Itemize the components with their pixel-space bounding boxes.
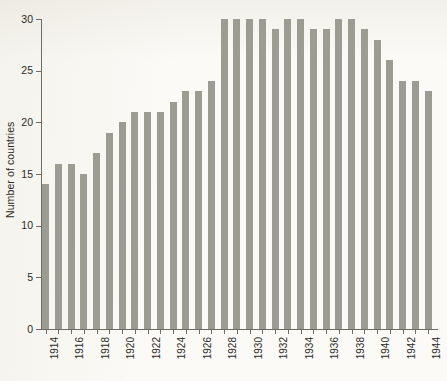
x-axis-tick-1942 <box>403 330 404 334</box>
x-axis-tick-label-1928: 1928 <box>228 337 238 359</box>
x-axis-tick-1937 <box>339 330 340 334</box>
x-axis-tick-label-1940: 1940 <box>381 337 391 359</box>
x-axis-tick-label-1920: 1920 <box>126 337 136 359</box>
bar <box>297 19 304 329</box>
bar <box>412 81 419 329</box>
x-axis-tick-1927 <box>211 330 212 334</box>
x-axis-tick-1934 <box>301 330 302 334</box>
y-axis-tick-label-25: 25 <box>0 65 33 76</box>
bar <box>399 81 406 329</box>
y-axis-tick <box>36 277 41 278</box>
y-axis-tick <box>36 71 41 72</box>
x-axis-tick-label-1938: 1938 <box>356 337 366 359</box>
x-axis-tick-1933 <box>288 330 289 334</box>
bar <box>425 91 432 329</box>
x-axis-tick-label-1942: 1942 <box>407 337 417 359</box>
y-axis-tick <box>36 226 41 227</box>
x-axis-tick-1939 <box>364 330 365 334</box>
x-axis-tick-label-1944: 1944 <box>432 337 442 359</box>
y-axis-tick <box>36 174 41 175</box>
x-axis-tick-1924 <box>173 330 174 334</box>
bar <box>119 122 126 329</box>
x-axis-tick-1916 <box>71 330 72 334</box>
bar <box>208 81 215 329</box>
bar <box>55 164 62 329</box>
bar <box>80 174 87 329</box>
bar <box>93 153 100 329</box>
x-axis-tick-label-1936: 1936 <box>330 337 340 359</box>
y-axis-tick-label-10: 10 <box>0 220 33 231</box>
bar <box>374 40 381 329</box>
x-axis-tick-label-1922: 1922 <box>152 337 162 359</box>
bar <box>361 29 368 329</box>
x-axis-tick-1935 <box>313 330 314 334</box>
y-axis-tick-label-15: 15 <box>0 169 33 180</box>
x-axis-tick-1943 <box>415 330 416 334</box>
x-axis-tick-label-1916: 1916 <box>75 337 85 359</box>
bar <box>310 29 317 329</box>
bar <box>170 102 177 329</box>
x-axis-tick-label-1924: 1924 <box>177 337 187 359</box>
x-axis-tick-1930 <box>250 330 251 334</box>
x-axis-tick-1914 <box>46 330 47 334</box>
bar <box>68 164 75 329</box>
page-background: Number of countries 051015202530 1914191… <box>0 0 447 381</box>
y-axis-tick <box>36 329 41 330</box>
y-axis-tick-label-30: 30 <box>0 14 33 25</box>
x-axis-tick-1922 <box>148 330 149 334</box>
bar <box>131 112 138 329</box>
x-axis-tick-1925 <box>186 330 187 334</box>
x-axis-tick-1938 <box>352 330 353 334</box>
bar <box>182 91 189 329</box>
x-axis-tick-label-1930: 1930 <box>254 337 264 359</box>
x-axis-tick-1928 <box>224 330 225 334</box>
x-axis-tick-1918 <box>97 330 98 334</box>
x-axis-tick-1919 <box>109 330 110 334</box>
x-axis-tick-1940 <box>377 330 378 334</box>
x-axis-tick-label-1914: 1914 <box>50 337 60 359</box>
bar <box>335 19 342 329</box>
bar <box>195 91 202 329</box>
bar <box>157 112 164 329</box>
bar <box>221 19 228 329</box>
x-axis-tick-1921 <box>135 330 136 334</box>
x-axis-tick-1926 <box>199 330 200 334</box>
x-axis-tick-1931 <box>262 330 263 334</box>
bar <box>348 19 355 329</box>
bar <box>144 112 151 329</box>
y-axis-tick-label-5: 5 <box>0 272 33 283</box>
x-axis-tick-label-1918: 1918 <box>101 337 111 359</box>
x-axis-tick-label-1932: 1932 <box>279 337 289 359</box>
bar <box>259 19 266 329</box>
bar <box>106 133 113 329</box>
bar <box>233 19 240 329</box>
x-axis-tick-label-1926: 1926 <box>203 337 213 359</box>
x-axis-line <box>41 329 438 330</box>
x-axis-tick-label-1934: 1934 <box>305 337 315 359</box>
bar <box>246 19 253 329</box>
bar <box>42 184 49 329</box>
y-axis-tick <box>36 19 41 20</box>
y-axis-tick <box>36 122 41 123</box>
x-axis-tick-1936 <box>326 330 327 334</box>
bar-chart: Number of countries 051015202530 1914191… <box>0 0 447 381</box>
x-axis-tick-1915 <box>58 330 59 334</box>
x-axis-tick-1941 <box>390 330 391 334</box>
x-axis-tick-1929 <box>237 330 238 334</box>
y-axis-tick-label-20: 20 <box>0 117 33 128</box>
x-axis-tick-1932 <box>275 330 276 334</box>
x-axis-tick-1917 <box>84 330 85 334</box>
y-axis-tick-label-0: 0 <box>0 324 33 335</box>
x-axis-tick-1944 <box>428 330 429 334</box>
bar <box>323 29 330 329</box>
x-axis-tick-1923 <box>160 330 161 334</box>
x-axis-tick-1920 <box>122 330 123 334</box>
bar <box>284 19 291 329</box>
bar <box>386 60 393 329</box>
bar <box>272 29 279 329</box>
